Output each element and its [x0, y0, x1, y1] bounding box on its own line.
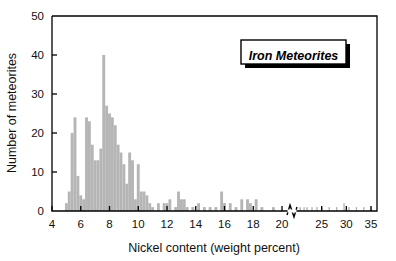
histogram-bar	[114, 125, 117, 211]
histogram-bar	[177, 192, 180, 212]
histogram-bar	[140, 192, 143, 212]
histogram-bar	[105, 106, 108, 211]
histogram-bar	[137, 164, 140, 211]
histogram-bar	[163, 203, 166, 211]
histogram-bar	[71, 133, 74, 211]
y-tick-label: 10	[31, 166, 44, 178]
histogram-chart: 01020304050 468101214161820253035 Nickel…	[0, 0, 396, 261]
histogram-bar	[229, 203, 232, 211]
histogram-bar	[255, 199, 258, 211]
histogram-bar	[249, 203, 252, 211]
histogram-bar	[120, 153, 123, 212]
histogram-bar	[91, 145, 94, 211]
histogram-bar	[240, 199, 243, 211]
x-tick-label: 25	[315, 218, 328, 230]
y-tick-label: 0	[38, 205, 44, 217]
histogram-bar	[111, 117, 114, 211]
histogram-bar	[99, 149, 102, 211]
histogram-bar	[343, 203, 344, 211]
histogram-bar	[183, 199, 186, 211]
y-tick-label: 40	[31, 49, 44, 61]
x-tick-label: 4	[49, 218, 56, 230]
histogram-bar	[197, 203, 200, 211]
histogram-bar	[102, 55, 105, 211]
histogram-bar	[168, 199, 171, 211]
x-tick-label: 18	[247, 218, 260, 230]
histogram-bar	[125, 184, 128, 211]
x-axis-title: Nickel content (weight percent)	[128, 241, 300, 255]
histogram-bar	[148, 203, 151, 211]
x-tick-label: 14	[189, 218, 202, 230]
histogram-bar	[76, 176, 79, 211]
histogram-bar	[145, 195, 148, 211]
histogram-bar	[85, 117, 88, 211]
histogram-bar	[108, 114, 111, 212]
histogram-bar	[157, 203, 160, 211]
legend-box: Iron Meteorites	[241, 40, 350, 68]
histogram-bar	[128, 153, 131, 212]
histogram-bar	[246, 199, 249, 211]
x-tick-label: 16	[218, 218, 231, 230]
histogram-bar	[220, 192, 223, 212]
x-tick-label: 10	[132, 218, 145, 230]
histogram-bar	[88, 121, 91, 211]
histogram-bar	[65, 203, 68, 211]
y-axis-title: Number of meteorites	[5, 53, 19, 173]
histogram-bar	[94, 160, 97, 211]
x-tick-label: 30	[340, 218, 353, 230]
legend-label: Iron Meteorites	[249, 49, 339, 63]
break-gap-mask	[288, 210, 297, 213]
histogram-bar	[82, 199, 85, 211]
histogram-bar	[180, 199, 183, 211]
histogram-bar	[74, 117, 77, 211]
histogram-bar	[134, 199, 137, 211]
x-tick-label: 35	[365, 218, 378, 230]
x-tick-label: 12	[161, 218, 174, 230]
y-tick-label: 30	[31, 88, 44, 100]
histogram-bar	[117, 145, 120, 211]
x-tick-label: 20	[276, 218, 289, 230]
y-tick-label: 50	[31, 10, 44, 22]
chart-figure: 01020304050 468101214161820253035 Nickel…	[0, 0, 396, 261]
x-tick-label: 8	[106, 218, 112, 230]
x-tick-label: 6	[78, 218, 84, 230]
histogram-bar	[68, 192, 71, 212]
y-tick-label: 20	[31, 127, 44, 139]
histogram-bar	[143, 192, 146, 212]
histogram-bar	[97, 160, 100, 211]
histogram-bar	[122, 164, 125, 211]
histogram-bar	[131, 160, 134, 211]
